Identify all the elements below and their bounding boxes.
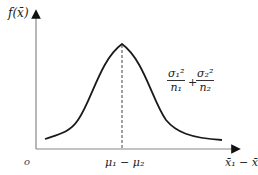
variance-term-1-denominator: n₁ — [170, 81, 182, 94]
mean-difference-label: μ₁ − μ₂ — [105, 156, 144, 169]
variance-term-2-numerator: σ₂² — [196, 67, 214, 81]
origin-label: o — [24, 156, 30, 167]
variance-term-1: σ₁² n₁ — [167, 67, 185, 94]
variance-term-1-numerator: σ₁² — [167, 67, 185, 81]
diagram-canvas — [0, 0, 258, 175]
y-axis-label: f(x̄) — [8, 6, 29, 20]
variance-term-2: σ₂² n₂ — [196, 67, 214, 94]
x-axis-label: x̄₁ − x̄₂ — [225, 156, 258, 169]
variance-term-2-denominator: n₂ — [199, 81, 211, 94]
